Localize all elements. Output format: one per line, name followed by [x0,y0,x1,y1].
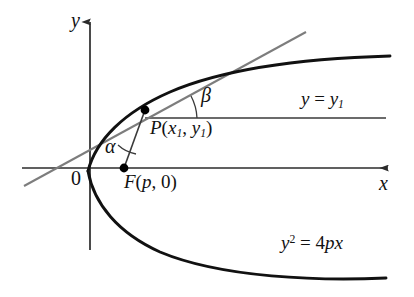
point-p-close-paren: ) [206,117,212,138]
parabola-eq-rhs: px [325,232,343,253]
focus-f-name: F [124,171,136,192]
focus-f-close-paren: ) [170,171,176,192]
focus-f-zero: 0 [161,171,171,192]
tangent-line [24,32,306,186]
focal-chord-fp [124,110,145,168]
point-p-label: P(x1, y1) [150,118,212,137]
beta-angle-arc [191,96,197,118]
parabola-eq-equals: = 4 [295,232,325,253]
origin-label: 0 [71,168,81,188]
line-label-rhs-sub: 1 [338,98,344,111]
focus-f-p-var: p [142,171,152,192]
point-p-name: P [150,117,162,138]
focus-f-label: F(p, 0) [124,172,177,191]
diagram-canvas [0,0,414,297]
x-axis-label: x [379,173,388,193]
focus-f-comma: , [151,171,161,192]
point-p-comma: , [182,117,192,138]
alpha-angle-label: α [105,136,116,156]
parabola-focus-tangent-diagram: y x 0 α β P(x1, y1) F(p, 0) y = y1 y2 = … [0,0,414,297]
point-p-marker [141,106,150,115]
y-axis-label: y [71,10,80,30]
parabola-equation-label: y2 = 4px [281,233,343,252]
line-label-rhs-var: y [330,88,338,109]
horizontal-line-label: y = y1 [301,89,344,108]
beta-angle-label: β [201,85,211,105]
alpha-angle-arc [118,145,136,154]
line-label-equals: = [309,88,329,109]
point-p-y-var: y [192,117,200,138]
